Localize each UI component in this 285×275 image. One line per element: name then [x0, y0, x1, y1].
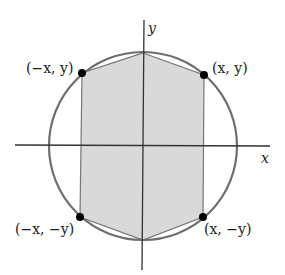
label-bottom-left: (−x, −y) — [15, 221, 74, 237]
point-bottom-left — [76, 213, 84, 221]
x-axis-label: x — [261, 150, 269, 166]
label-top-right: (x, y) — [212, 60, 248, 76]
label-bottom-right: (x, −y) — [204, 221, 251, 237]
point-top-left — [78, 69, 86, 77]
point-top-right — [200, 71, 208, 79]
point-bottom-right — [199, 213, 207, 221]
label-top-left: (−x, y) — [26, 60, 73, 76]
inscribed-hexagon-diagram: x y (−x, y) (x, y) (−x, −y) (x, −y) — [0, 0, 285, 275]
y-axis-label: y — [147, 20, 157, 36]
